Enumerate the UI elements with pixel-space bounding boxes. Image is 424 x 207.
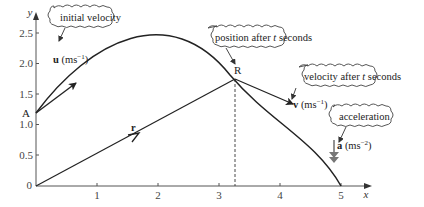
vector-a-label: a (ms−2): [337, 139, 372, 152]
callout-acceleration-text: acceleration: [339, 111, 390, 122]
x-tick-1: 1: [94, 189, 100, 201]
point-R-label: R: [234, 64, 242, 76]
x-tick-5: 5: [338, 189, 344, 201]
x-tick-4: 4: [277, 189, 283, 201]
y-tick-0-5: 0.5: [19, 149, 33, 161]
x-tick-2: 2: [155, 189, 161, 201]
y-axis-arrow-icon: [33, 12, 39, 20]
y-tick-0: 0: [27, 179, 33, 191]
callout-velocity-text: velocity after t seconds: [304, 71, 401, 82]
x-axis-label: x: [363, 188, 369, 200]
y-tick-2-5: 2.5: [19, 27, 33, 39]
point-A-label: A: [22, 107, 30, 119]
vector-r-label: r: [131, 122, 136, 133]
x-tick-3: 3: [216, 189, 222, 201]
initial-velocity-vector: [36, 83, 76, 113]
y-axis-label: y: [27, 6, 33, 18]
callout-position-text: position after t seconds: [215, 32, 312, 43]
callout-initial-velocity-text: initial velocity: [60, 12, 122, 23]
y-tick-1-0: 1.0: [19, 118, 33, 130]
vector-v-label: v (ms−1): [293, 98, 328, 111]
projectile-diagram: 1 2 3 4 5 x 0 0.5 1.0 1.5 2.0 2.5 y r A …: [0, 0, 424, 207]
callout-acceleration: acceleration: [329, 104, 393, 142]
velocity-vector: [235, 79, 293, 104]
callout-initial-velocity: initial velocity: [48, 5, 122, 41]
callout-velocity: velocity after t seconds: [292, 64, 401, 99]
position-vector-arrow-icon: [128, 133, 139, 142]
acceleration-arrow-icon: [329, 152, 339, 163]
y-tick-2-0: 2.0: [19, 57, 33, 69]
callout-position: position after t seconds: [208, 25, 312, 64]
y-tick-1-5: 1.5: [19, 88, 33, 100]
